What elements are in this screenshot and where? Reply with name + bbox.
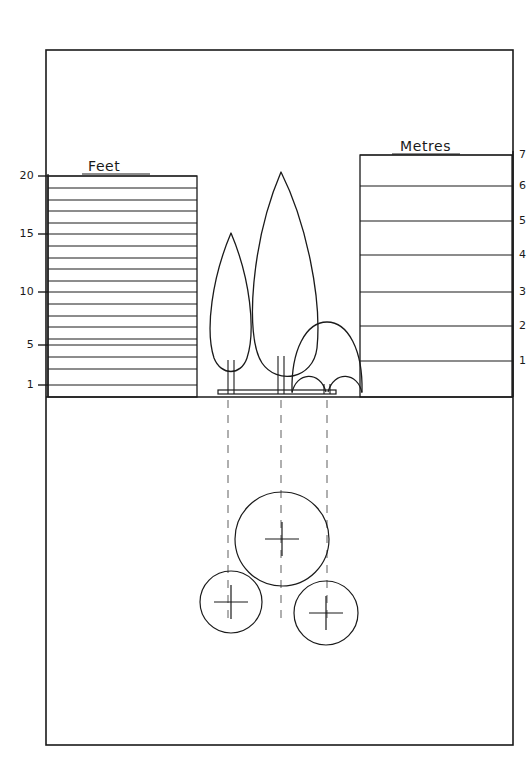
metres-tick-label-7: 7 bbox=[519, 148, 528, 161]
plan-circles-group bbox=[200, 492, 358, 645]
feet-tick-label-5: 5 bbox=[2, 338, 34, 351]
tree-elevation-group bbox=[210, 172, 362, 394]
metres-tick-label-5: 5 bbox=[519, 214, 528, 227]
feet-tick-label-20: 20 bbox=[2, 169, 34, 182]
tree-scale-diagram bbox=[0, 0, 528, 784]
metres-tick-label-3: 3 bbox=[519, 285, 528, 298]
small-conifer-left-crown bbox=[210, 233, 251, 372]
feet-tick-label-10: 10 bbox=[2, 285, 34, 298]
feet-scale-title: Feet bbox=[88, 158, 120, 174]
metres-tick-label-2: 2 bbox=[519, 319, 528, 332]
drawing-canvas: Feet Metres 20151051 7654321 bbox=[0, 0, 528, 784]
metres-scale-title: Metres bbox=[400, 138, 451, 154]
metres-scale-graphic bbox=[360, 151, 513, 397]
tall-conifer-centre-crown bbox=[252, 172, 317, 376]
metres-tick-label-6: 6 bbox=[519, 179, 528, 192]
feet-tick-label-15: 15 bbox=[2, 227, 34, 240]
feet-scale-graphic bbox=[38, 174, 197, 397]
dome-shrub-right-crown bbox=[292, 322, 362, 392]
metres-tick-label-1: 1 bbox=[519, 354, 528, 367]
feet-tick-label-1: 1 bbox=[2, 378, 34, 391]
projection-lines-group bbox=[228, 400, 327, 620]
planting-platform bbox=[218, 390, 336, 394]
metres-tick-label-4: 4 bbox=[519, 248, 528, 261]
ground-line bbox=[46, 390, 513, 397]
feet-scale-box bbox=[48, 176, 197, 397]
